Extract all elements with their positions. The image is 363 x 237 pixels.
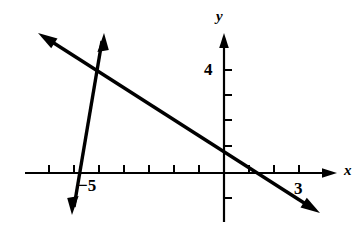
x-tick-label-neg5: −5: [78, 177, 96, 194]
steep-line-arrowhead-bottom: [67, 196, 78, 215]
y-axis-arrowhead: [219, 33, 229, 48]
x-axis-group: [25, 165, 337, 178]
steep-line-arrowhead-top: [97, 33, 108, 52]
y-tick-label-4: 4: [204, 61, 213, 78]
x-tick-label-3: 3: [294, 180, 303, 197]
x-axis-label: x: [344, 163, 352, 178]
shallow-line-arrowhead-left: [38, 33, 58, 48]
y-axis-ticks: [224, 70, 232, 198]
y-axis-group: [219, 33, 232, 222]
x-axis-arrowhead: [322, 168, 337, 178]
x-axis-ticks: [49, 165, 299, 173]
coordinate-plane-svg: [0, 0, 363, 237]
shallow-line-arrowhead-right: [301, 198, 321, 213]
graph-figure: y x 4 3 −5: [0, 0, 363, 237]
y-axis-label: y: [216, 9, 223, 24]
